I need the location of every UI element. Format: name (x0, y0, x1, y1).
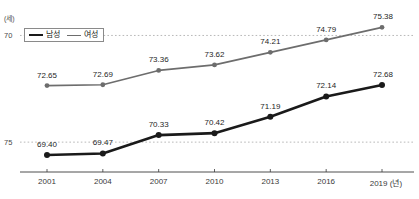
data-point (45, 83, 50, 88)
legend-line-icon-male (29, 34, 43, 36)
legend-label-male: 남성 (46, 31, 60, 39)
x-axis-tick-label: 2010 (206, 177, 224, 186)
data-point-label: 71.19 (260, 102, 280, 111)
data-point (156, 68, 161, 73)
data-point-label: 72.65 (37, 71, 57, 80)
legend-line-icon-female (67, 35, 81, 36)
data-point (380, 25, 385, 30)
data-point (323, 93, 329, 99)
x-axis-tick-label: 2016 (317, 177, 335, 186)
legend-label-female: 여성 (84, 31, 98, 39)
legend-entry-male: 남성 (29, 31, 60, 39)
chart-legend: 남성 여성 (24, 28, 104, 42)
data-point-label: 70.42 (204, 118, 224, 127)
data-point (100, 82, 105, 87)
data-point (267, 114, 273, 120)
x-axis-tick-label: 2013 (261, 177, 279, 186)
data-point (156, 132, 162, 138)
data-point-label: 72.14 (316, 81, 336, 90)
data-point-label: 69.40 (37, 140, 57, 149)
legend-entry-female: 여성 (67, 31, 98, 39)
x-axis-tick-label: 2019 (년) (370, 177, 402, 188)
chart-container: (세) 남성 여성 7570 2001200420072010201320162… (0, 0, 419, 199)
data-point (379, 82, 385, 88)
data-point (324, 38, 329, 43)
data-point (212, 63, 217, 68)
data-point-label: 74.21 (260, 37, 280, 46)
x-axis-tick-label: 2007 (150, 177, 168, 186)
y-axis-tick-label: 70 (4, 31, 12, 40)
data-point (212, 130, 218, 136)
data-point (100, 150, 106, 156)
data-point-label: 73.62 (204, 50, 224, 59)
data-point (268, 50, 273, 55)
data-point-label: 70.33 (149, 120, 169, 129)
data-point-label: 73.36 (149, 55, 169, 64)
x-axis-tick-label: 2004 (94, 177, 112, 186)
data-point-label: 72.69 (93, 70, 113, 79)
data-point-label: 74.79 (316, 25, 336, 34)
data-point-label: 72.68 (373, 70, 393, 79)
data-point-label: 69.47 (93, 138, 113, 147)
x-axis-tick-label: 2001 (38, 177, 56, 186)
data-point (44, 152, 50, 158)
y-axis-tick-label: 75 (4, 138, 12, 147)
data-point-label: 75.38 (373, 12, 393, 21)
